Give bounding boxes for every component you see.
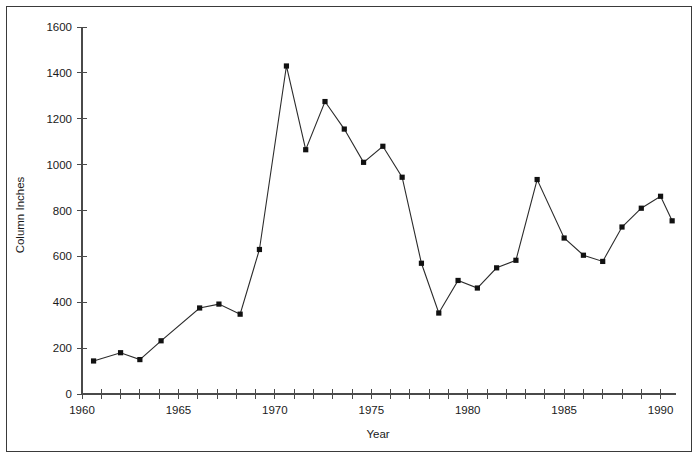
x-axis-tick-label: 1985 <box>551 404 577 416</box>
data-point-marker <box>639 206 644 211</box>
data-point-marker <box>91 358 96 363</box>
x-axis: 1960196519701975198019851990 <box>69 389 676 416</box>
x-axis-tick-label: 1990 <box>648 404 674 416</box>
data-point-marker <box>216 301 221 306</box>
y-axis-tick-label: 0 <box>66 388 72 400</box>
data-point-marker <box>284 63 289 68</box>
data-point-marker <box>158 338 163 343</box>
x-axis-tick-label: 1965 <box>166 404 192 416</box>
data-point-marker <box>419 261 424 266</box>
data-point-marker <box>670 218 675 223</box>
data-point-marker <box>600 259 605 264</box>
data-point-marker <box>257 247 262 252</box>
data-point-marker <box>436 310 441 315</box>
y-axis-tick-label: 400 <box>53 296 72 308</box>
data-point-marker <box>342 126 347 131</box>
chart-page: 02004006008001000120014001600 1960196519… <box>0 0 699 459</box>
line-chart: 02004006008001000120014001600 1960196519… <box>0 0 699 459</box>
y-axis-tick-label: 1400 <box>46 67 72 79</box>
data-point-marker <box>513 258 518 263</box>
data-point-marker <box>562 235 567 240</box>
y-axis-tick-label: 1000 <box>46 159 72 171</box>
x-axis-title: Year <box>366 428 389 440</box>
data-point-marker <box>137 357 142 362</box>
x-axis-tick-label: 1980 <box>455 404 481 416</box>
data-point-marker <box>197 305 202 310</box>
data-series <box>91 63 675 363</box>
data-point-marker <box>400 175 405 180</box>
y-axis-title: Column Inches <box>14 176 26 253</box>
data-point-marker <box>619 224 624 229</box>
x-axis-tick-label: 1960 <box>69 404 95 416</box>
data-point-marker <box>535 177 540 182</box>
data-point-marker <box>361 160 366 165</box>
y-axis-tick-label: 200 <box>53 342 72 354</box>
x-axis-tick-label: 1975 <box>358 404 384 416</box>
y-axis-tick-label: 600 <box>53 250 72 262</box>
plot-area: 02004006008001000120014001600 1960196519… <box>0 0 699 459</box>
data-point-marker <box>238 312 243 317</box>
x-axis-tick-label: 1970 <box>262 404 288 416</box>
data-point-marker <box>658 194 663 199</box>
data-point-marker <box>303 147 308 152</box>
data-point-marker <box>581 253 586 258</box>
data-point-marker <box>380 144 385 149</box>
data-point-marker <box>118 350 123 355</box>
y-axis-tick-label: 800 <box>53 205 72 217</box>
data-point-marker <box>475 285 480 290</box>
data-point-marker <box>455 278 460 283</box>
data-point-marker <box>322 99 327 104</box>
data-point-marker <box>494 265 499 270</box>
y-axis-tick-label: 1200 <box>46 113 72 125</box>
y-axis: 02004006008001000120014001600 <box>46 21 87 400</box>
series-line <box>94 66 673 361</box>
y-axis-tick-label: 1600 <box>46 21 72 33</box>
